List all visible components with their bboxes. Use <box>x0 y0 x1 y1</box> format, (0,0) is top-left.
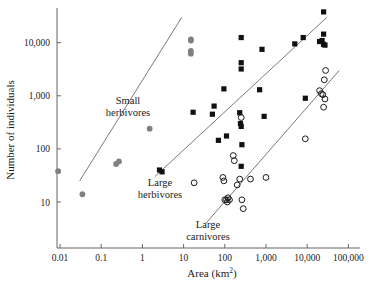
data-point-square <box>212 103 217 108</box>
y-tick-label: 100 <box>36 144 51 154</box>
data-point-circle-open <box>237 176 243 182</box>
data-point-circle-open <box>191 180 197 186</box>
data-point-square <box>159 169 164 174</box>
data-point-square <box>239 66 244 71</box>
x-tick-label: 0.01 <box>52 253 69 263</box>
data-point-circle-open <box>248 176 254 182</box>
data-point-square <box>239 35 244 40</box>
x-tick-label: 100 <box>218 253 233 263</box>
x-tick-label: 1,000 <box>255 253 277 263</box>
data-point-square <box>239 60 244 65</box>
data-point-circle-open <box>302 136 308 142</box>
data-point-square <box>292 41 297 46</box>
chart-page: 0.010.11101001,00010,000100,000101001,00… <box>0 0 384 296</box>
data-point-square <box>321 9 326 14</box>
annotation-line-2: herbivores <box>138 189 182 200</box>
series-large-herbivores <box>157 9 328 174</box>
y-tick-label: 1,000 <box>29 91 51 101</box>
data-point-square <box>303 96 308 101</box>
data-point-square <box>259 47 264 52</box>
annotation-line-1: Small <box>116 95 141 106</box>
data-point-circle-filled <box>116 159 122 165</box>
data-point-square <box>216 138 221 143</box>
data-point-square <box>210 112 215 117</box>
data-point-circle-filled <box>55 168 61 174</box>
data-point-square <box>239 164 244 169</box>
data-point-square <box>322 43 327 48</box>
trend-line-large-herbivores <box>155 17 327 176</box>
data-point-circle-filled <box>188 51 194 57</box>
data-point-circle-filled <box>147 126 153 132</box>
y-tick-label: 10 <box>41 198 51 208</box>
annotation-line-1: Large <box>196 219 221 230</box>
data-point-circle-open <box>263 175 269 181</box>
data-point-circle-open <box>239 197 245 203</box>
x-axis-title: Area (km2) <box>187 266 237 281</box>
data-point-circle-open <box>240 206 246 212</box>
data-point-square <box>321 32 326 37</box>
annotation-line-2: herbivores <box>106 107 150 118</box>
data-point-square <box>239 142 244 147</box>
data-point-square <box>224 133 229 138</box>
annotation-small-herbivores: Smallherbivores <box>106 95 150 118</box>
y-axis-title: Number of individuals <box>4 80 16 180</box>
x-tick-label: 0.1 <box>95 253 107 263</box>
scatter-plot: 0.010.11101001,00010,000100,000101001,00… <box>0 0 384 296</box>
data-point-circle-open <box>323 68 329 74</box>
x-tick-label: 1 <box>140 253 145 263</box>
data-point-circle-filled <box>80 191 86 197</box>
data-point-circle-open <box>321 77 327 83</box>
data-point-square <box>257 87 262 92</box>
y-tick-label: 10,000 <box>24 38 50 48</box>
data-point-square <box>221 86 226 91</box>
annotation-line-2: carnivores <box>186 231 230 242</box>
data-point-circle-filled <box>188 38 194 44</box>
data-point-square <box>262 114 267 119</box>
annotation-large-herbivores: Largeherbivores <box>138 177 182 200</box>
data-point-square <box>239 124 244 129</box>
annotation-large-carnivores: Largecarnivores <box>186 219 230 242</box>
x-tick-label: 10 <box>179 253 189 263</box>
x-tick-label: 10,000 <box>294 253 320 263</box>
data-point-square <box>190 110 195 115</box>
x-tick-label: 100,000 <box>333 253 364 263</box>
data-point-circle-open <box>238 115 244 121</box>
data-point-circle-open <box>321 104 327 110</box>
data-point-square <box>301 35 306 40</box>
data-point-circle-open <box>221 178 227 184</box>
annotation-line-1: Large <box>148 177 173 188</box>
